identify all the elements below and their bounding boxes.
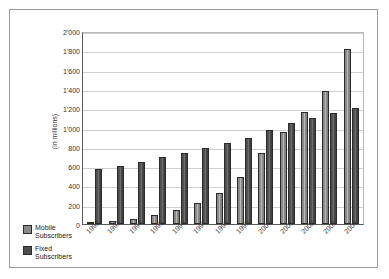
- bar-fixed-1997: [202, 148, 209, 224]
- bar-mobile-1999: [237, 177, 244, 224]
- bar-group: [234, 33, 255, 224]
- bar-group: [148, 33, 169, 224]
- x-axis-tick-cell: 1997: [191, 227, 213, 267]
- bar-fixed-2001: [288, 123, 295, 224]
- y-axis-tick-label: 2'000: [40, 29, 80, 36]
- bar-mobile-2002: [301, 112, 308, 224]
- x-axis-tick-cell: 2000: [255, 227, 277, 267]
- y-axis-tick-label: 1'600: [40, 67, 80, 74]
- bar-group: [277, 33, 298, 224]
- x-axis-ticks: 1992199319941995199619971998199920002001…: [82, 227, 364, 267]
- bar-group: [212, 33, 233, 224]
- y-axis-tick-label: 600: [40, 164, 80, 171]
- x-axis-tick-cell: 2003: [320, 227, 342, 267]
- bar-fixed-2002: [309, 118, 316, 224]
- bar-mobile-2003: [322, 91, 329, 224]
- plot-area: [82, 32, 364, 225]
- bar-group: [255, 33, 276, 224]
- bar-mobile-2004: [344, 49, 351, 224]
- bar-fixed-2004: [352, 108, 359, 224]
- bar-group: [298, 33, 319, 224]
- chart-legend: MobileSubscribersFixedSubscribers: [23, 224, 83, 266]
- bar-fixed-2000: [266, 130, 273, 224]
- y-axis-tick-label: 1'800: [40, 48, 80, 55]
- bar-mobile-2000: [258, 153, 265, 224]
- y-axis-tick-label: 1'400: [40, 86, 80, 93]
- bar-mobile-2001: [280, 132, 287, 224]
- bar-fixed-2003: [330, 113, 337, 224]
- legend-label-line1: Mobile: [35, 224, 72, 232]
- bar-fixed-1994: [138, 162, 145, 224]
- bar-group: [319, 33, 340, 224]
- bar-group: [84, 33, 105, 224]
- y-axis-ticks: 2'0001'8001'6001'4001'2001'0008006004002…: [36, 32, 80, 225]
- legend-label-line1: Fixed: [35, 245, 72, 253]
- y-axis-tick-label: 800: [40, 144, 80, 151]
- x-axis-tick-cell: 1999: [234, 227, 256, 267]
- fixed-swatch-icon: [23, 246, 32, 255]
- y-axis-tick-label: 1'000: [40, 125, 80, 132]
- x-axis-tick-cell: 2002: [298, 227, 320, 267]
- x-axis-tick-cell: 1995: [148, 227, 170, 267]
- bar-group: [341, 33, 362, 224]
- chart-frame: (in millions) 2'0001'8001'6001'4001'2001…: [9, 9, 378, 268]
- bar-fixed-1999: [245, 138, 252, 224]
- x-axis-tick-cell: 1992: [83, 227, 105, 267]
- bar-groups: [83, 33, 363, 224]
- legend-item: FixedSubscribers: [23, 245, 83, 261]
- bar-fixed-1998: [224, 143, 231, 224]
- legend-item-label: FixedSubscribers: [35, 245, 72, 261]
- x-axis-tick-cell: 2001: [277, 227, 299, 267]
- legend-item-label: MobileSubscribers: [35, 224, 72, 240]
- y-axis-tick-label: 400: [40, 183, 80, 190]
- x-axis-tick-cell: 1998: [212, 227, 234, 267]
- y-axis-tick-label: 200: [40, 202, 80, 209]
- y-axis-tick-label: 1'200: [40, 106, 80, 113]
- bar-fixed-1993: [117, 166, 124, 224]
- bar-group: [170, 33, 191, 224]
- x-axis-tick-cell: 1996: [169, 227, 191, 267]
- bar-group: [105, 33, 126, 224]
- legend-label-line2: Subscribers: [35, 232, 72, 240]
- legend-item: MobileSubscribers: [23, 224, 83, 240]
- x-axis-tick-cell: 1994: [126, 227, 148, 267]
- bar-mobile-1998: [216, 193, 223, 224]
- bar-group: [191, 33, 212, 224]
- mobile-swatch-icon: [23, 225, 32, 234]
- bar-fixed-1992: [95, 169, 102, 224]
- legend-label-line2: Subscribers: [35, 253, 72, 261]
- bar-group: [127, 33, 148, 224]
- x-axis-tick-cell: 1993: [105, 227, 127, 267]
- bar-fixed-1996: [181, 153, 188, 224]
- bar-fixed-1995: [159, 157, 166, 224]
- x-axis-tick-cell: 2004: [341, 227, 363, 267]
